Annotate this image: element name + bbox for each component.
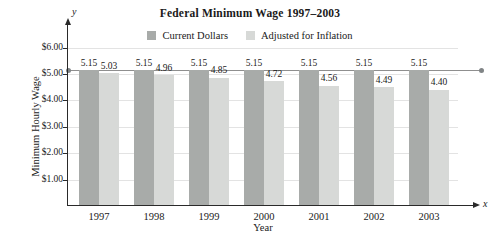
reference-line-right-dot-icon [479,68,484,73]
bar-adjusted-for-inflation [429,90,449,206]
legend-label-adjusted-for-inflation: Adjusted for Inflation [261,30,353,41]
bar-value-label-adjusted: 4.96 [149,63,179,73]
legend-label-current-dollars: Current Dollars [162,30,228,41]
bar-adjusted-for-inflation [99,73,119,206]
bar-value-label-current: 5.15 [239,58,269,68]
y-tick-label: $1.00 [23,174,63,184]
minimum-wage-bar-chart: Federal Minimum Wage 1997–2003 Current D… [0,0,500,247]
x-category-label: 1998 [132,211,176,222]
bar-adjusted-for-inflation [264,81,284,206]
y-axis-line [67,24,68,206]
legend-item-current-dollars: Current Dollars [147,30,228,41]
bar-current-dollars [189,70,209,206]
bar-value-label-adjusted: 4.85 [204,65,234,75]
bar-value-label-adjusted: 4.49 [369,75,399,85]
bar-value-label-current: 5.15 [294,58,324,68]
y-tick-label: $2.00 [23,147,63,157]
x-category-label: 2001 [297,211,341,222]
x-category-label: 2003 [407,211,451,222]
y-tick-label: $6.00 [23,42,63,52]
y-axis-arrow-label: y [72,6,76,17]
bar-adjusted-for-inflation [319,86,339,206]
x-axis-arrow-icon [473,202,480,208]
bar-current-dollars [134,70,154,206]
legend-swatch-current-dollars-icon [147,31,156,40]
gridline [68,48,458,49]
y-tick-label: $3.00 [23,121,63,131]
bar-value-label-adjusted: 4.72 [259,69,289,79]
y-tick-label: $4.00 [23,94,63,104]
bar-current-dollars [409,70,429,206]
bar-value-label-adjusted: 4.56 [314,73,344,83]
bar-current-dollars [299,70,319,206]
y-tick-label: $5.00 [23,68,63,78]
legend-swatch-adjusted-for-inflation-icon [246,31,255,40]
bar-adjusted-for-inflation [209,78,229,206]
bar-value-label-current: 5.15 [349,58,379,68]
bar-value-label-adjusted: 5.03 [94,61,124,71]
x-axis-line [68,205,474,206]
x-category-label: 1997 [77,211,121,222]
chart-legend: Current Dollars Adjusted for Inflation [0,29,500,42]
bar-value-label-adjusted: 4.40 [424,77,454,87]
x-category-label: 1999 [187,211,231,222]
bar-current-dollars [354,70,374,206]
x-category-label: 2002 [352,211,396,222]
x-category-label: 2000 [242,211,286,222]
x-axis-title: Year [68,222,458,233]
bar-adjusted-for-inflation [154,75,174,206]
bar-value-label-current: 5.15 [404,58,434,68]
legend-item-adjusted-for-inflation: Adjusted for Inflation [246,30,353,41]
y-axis-arrow-icon [65,18,71,25]
x-axis-arrow-label: x [483,198,487,209]
bar-current-dollars [79,70,99,206]
bar-current-dollars [244,70,264,206]
bar-adjusted-for-inflation [374,87,394,206]
